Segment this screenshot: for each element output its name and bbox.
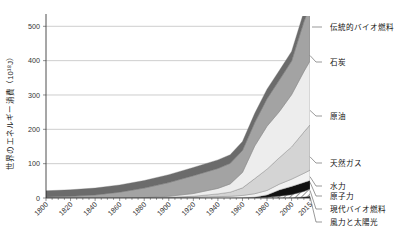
x-tick-label: 1900: [155, 200, 173, 218]
y-tick-label: 300: [28, 91, 40, 100]
x-axis-ticks: 1800182018401860188019001920194019601980…: [32, 198, 314, 218]
y-tick-label: 200: [28, 125, 40, 134]
legend-label-3: 天然ガス: [330, 158, 362, 168]
x-tick-label: 1940: [204, 200, 222, 218]
legend-leader-line-3: [310, 157, 322, 163]
y-axis-ticks: 0100200300400500: [28, 22, 46, 203]
x-tick-label: 1880: [130, 200, 148, 218]
x-tick-label: 1860: [106, 200, 124, 218]
legend-leader-line-1: [310, 56, 322, 63]
legend-leader-line-4: [310, 177, 322, 186]
y-axis-title: 世界のエネルギー消費（10¹⁸J）: [5, 53, 15, 170]
legend-label-5: 原子力: [330, 191, 354, 201]
chart-canvas: 0100200300400500 18001820184018601880190…: [0, 0, 409, 243]
x-tick-label: 1960: [229, 200, 247, 218]
y-tick-label: 500: [28, 22, 40, 31]
legend-leader-line-2: [310, 110, 322, 116]
energy-consumption-area-chart: 0100200300400500 18001820184018601880190…: [0, 0, 409, 243]
x-tick-label: 1920: [180, 200, 198, 218]
legend-label-1: 石炭: [330, 58, 346, 67]
legend-label-7: 風力と太陽光: [330, 217, 378, 227]
y-tick-label: 400: [28, 56, 40, 65]
y-tick-label: 0: [36, 194, 40, 203]
x-tick-label: 1820: [57, 200, 75, 218]
legend-leader-line-5: [310, 182, 322, 196]
legend-label-6: 現代バイオ燃料: [330, 204, 386, 214]
x-tick-label: 1840: [81, 200, 99, 218]
stacked-area-bands: [46, 0, 310, 198]
x-tick-label: 1980: [253, 200, 271, 218]
legend-labels: 伝統的バイオ燃料石炭原油天然ガス水力原子力現代バイオ燃料風力と太陽光: [330, 22, 394, 227]
legend-label-0: 伝統的バイオ燃料: [330, 22, 394, 32]
legend-leader-lines: [310, 27, 322, 222]
y-axis-title-text: 世界のエネルギー消費（10¹⁸J）: [5, 53, 15, 170]
y-tick-label: 100: [28, 159, 40, 168]
legend-label-4: 水力: [330, 181, 346, 191]
legend-label-2: 原油: [330, 111, 346, 121]
x-tick-label: 2000: [278, 200, 296, 218]
x-tick-label: 1800: [32, 200, 50, 218]
